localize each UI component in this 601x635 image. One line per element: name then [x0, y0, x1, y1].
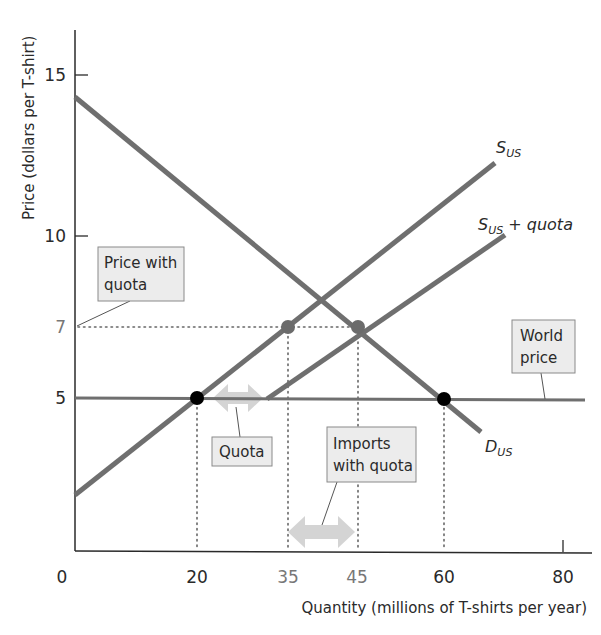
- y-tick-label-10: 10: [44, 226, 66, 246]
- annotation-leader: [322, 482, 337, 525]
- annotation-leader: [236, 407, 240, 437]
- demand-curve-label: DUS: [485, 437, 512, 459]
- x-tick-labels: 0 20 35 45 60 80: [57, 567, 574, 587]
- x-tick-label-60: 60: [433, 567, 455, 587]
- y-tick-label-15: 15: [44, 65, 66, 85]
- x-tick-label-0: 0: [57, 567, 68, 587]
- annotation-text-line2: with quota: [333, 457, 413, 475]
- annotation-text-line1: Quota: [219, 443, 265, 461]
- y-axis-title: Price (dollars per T-shirt): [20, 36, 38, 220]
- annotation-imports-with-quota: Imports with quota: [322, 427, 416, 525]
- marker-consumption-quota: [351, 320, 365, 334]
- annotation-leader: [77, 301, 130, 326]
- imports-arrow-icon: [288, 516, 355, 548]
- annotation-leader: [541, 373, 545, 399]
- supply-curve-label: SUS: [496, 138, 521, 160]
- y-tick-label-5: 5: [55, 388, 66, 408]
- annotation-text-line2: quota: [104, 276, 147, 294]
- supply-plus-quota-label: SUS + quota: [478, 215, 573, 237]
- world-price-line: [75, 398, 585, 400]
- y-tick-label-7: 7: [55, 317, 66, 337]
- x-tick-label-45: 45: [346, 567, 368, 587]
- annotation-text-line2: price: [520, 349, 557, 367]
- marker-consumption-world-price: [437, 392, 451, 406]
- marker-production-quota: [281, 320, 295, 334]
- tariff-quota-chart: 15 10 7 5 0 20 35 45 60 80 Quantity (mil…: [0, 0, 601, 635]
- x-tick-label-35: 35: [277, 567, 299, 587]
- x-axis-title: Quantity (millions of T-shirts per year): [301, 599, 587, 617]
- annotation-text-line1: World: [520, 327, 563, 345]
- annotation-quota: Quota: [212, 407, 272, 466]
- annotation-price-with-quota: Price with quota: [77, 247, 184, 326]
- annotation-world-price: World price: [512, 320, 575, 399]
- y-tick-labels: 15 10 7 5: [44, 65, 66, 408]
- marker-production-world-price: [190, 391, 204, 405]
- x-tick-label-20: 20: [186, 567, 208, 587]
- annotation-text-line1: Price with: [104, 254, 177, 272]
- x-tick-label-80: 80: [552, 567, 574, 587]
- annotation-text-line1: Imports: [333, 435, 391, 453]
- x-axis: [75, 551, 592, 553]
